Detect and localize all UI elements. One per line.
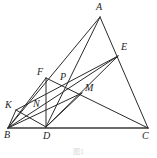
vertex-label-e: E (121, 42, 127, 52)
vertex-label-m: M (85, 83, 93, 93)
segment-ek (16, 56, 118, 110)
segment-bm (8, 93, 82, 128)
vertex-label-a: A (96, 2, 102, 12)
vertex-label-d: D (43, 131, 50, 141)
vertex-label-c: C (142, 131, 149, 141)
vertex-label-p: P (60, 72, 66, 82)
segments-group (8, 17, 148, 128)
vertex-label-k: K (5, 100, 12, 110)
segment-ac (100, 17, 148, 128)
figure-caption: 图1 (0, 146, 157, 156)
segment-eb (8, 56, 118, 128)
vertex-label-f: F (37, 67, 43, 77)
geometry-figure: ABCDEFKMNP 图1 (0, 0, 157, 158)
segment-fb (8, 78, 46, 128)
vertex-label-n: N (33, 99, 40, 109)
segment-dm (46, 93, 82, 127)
geometry-canvas (0, 0, 157, 158)
vertex-label-b: B (4, 130, 10, 140)
